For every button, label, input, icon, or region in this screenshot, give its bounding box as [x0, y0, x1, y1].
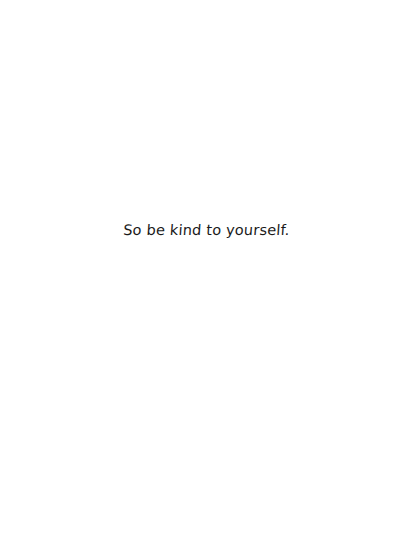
- quote-text: So be kind to yourself.: [0, 219, 413, 241]
